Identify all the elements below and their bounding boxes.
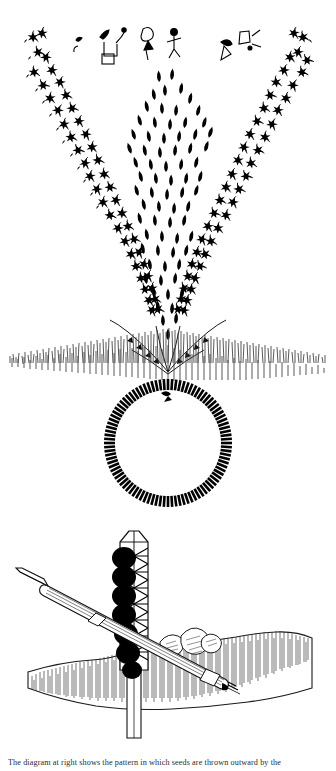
figure-caption: The diagram at right shows the pattern i…: [8, 757, 328, 771]
central-seed-plume: [126, 68, 214, 340]
seed-dispersal-figure: [0, 0, 336, 520]
rocket-launch-figure: [0, 520, 336, 740]
seed-dispersal-panel: [0, 0, 336, 520]
illustration-plate: The diagram at right shows the pattern i…: [0, 0, 336, 771]
ring-entry-seed: [161, 391, 172, 402]
right-flank-seed-cluster: [171, 26, 314, 318]
left-flank-seed-cluster: [24, 26, 165, 318]
rocket-launch-panel: [0, 520, 336, 740]
upper-outline-marks: [74, 28, 261, 64]
